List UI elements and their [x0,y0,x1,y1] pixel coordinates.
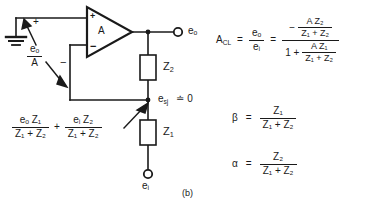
input-terminal-label: eᵢ [142,181,149,191]
error-voltage-denominator: A [28,58,41,69]
acl-lhs: ACL [216,35,231,46]
summing-junction-label: esj ≐ 0 [158,94,193,105]
node-dot-output [146,30,151,35]
acl-minus-sign: − [289,23,295,34]
beta-lhs: β [232,113,238,123]
alpha-fraction: Z₂ Z₁ + Z₂ [260,152,297,176]
opamp-plus-input-label: + [90,12,95,21]
acl-equals-2: = [270,35,276,45]
input-terminal-circle [144,170,152,178]
superposition-term-2: eᵢ Z₂ Z₁ + Z₂ [65,115,102,139]
resistor-z2-body [140,55,156,80]
acl-denominator-one: 1 + [285,48,299,59]
acl-numerator-fraction: A Z₂ Z₁ + Z₂ [298,17,332,39]
beta-fraction: Z₁ Z₁ + Z₂ [260,106,297,130]
alpha-lhs: α [232,159,238,169]
superposition-expression: eₒ Z₁ Z₁ + Z₂ + eᵢ Z₂ Z₁ + Z₂ [12,115,102,139]
superposition-operator: + [54,122,60,132]
superposition-term-1: eₒ Z₁ Z₁ + Z₂ [12,115,49,139]
acl-equals-1: = [237,35,243,45]
acl-denominator-fraction: A Z₁ Z₁ + Z₂ [302,42,336,64]
resistor-z2-label: Z2 [163,61,174,73]
figure-operational-amplifier-feedback: + − A + − eₒ A eₒ eᵢ Z2 Z1 esj ≐ 0 eₒ Z₁… [0,0,391,214]
minus-sign-annotation: − [60,57,66,68]
equation-beta: β = Z₁ Z₁ + Z₂ [232,106,296,130]
output-terminal-circle [174,28,182,36]
node-dot-summing-junction [146,98,151,103]
opamp-gain-label: A [98,26,105,36]
acl-main-fraction: − A Z₂ Z₁ + Z₂ 1 + A Z₁ [282,17,339,64]
resistor-z1-body [140,120,156,145]
opamp-minus-input-label: − [90,41,96,52]
resistor-z1-label: Z1 [163,126,174,138]
equation-acl: ACL = eₒ eᵢ = − A Z₂ Z₁ + Z₂ [216,17,339,64]
figure-bottom-caption [28,203,363,213]
error-voltage-numerator: eₒ [27,44,42,55]
output-terminal-label: eₒ [188,26,197,36]
beta-equals: = [246,113,252,123]
alpha-equals: = [246,159,252,169]
acl-ratio: eₒ eᵢ [249,28,264,52]
equation-alpha: α = Z₂ Z₁ + Z₂ [232,152,297,176]
plus-sign-annotation: + [33,17,39,27]
error-voltage-expression: eₒ A [27,44,42,68]
figure-sublabel: (b) [182,188,193,198]
